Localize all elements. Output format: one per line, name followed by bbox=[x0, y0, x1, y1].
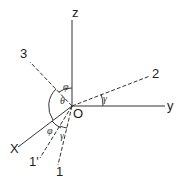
line-3-label: 3 bbox=[20, 46, 27, 61]
diagram-canvas: z y X O 3 2 1 1' φ θ γ φ γ bbox=[0, 0, 182, 184]
line-1-label: 1 bbox=[56, 164, 63, 179]
line-1-prime-label: 1' bbox=[29, 154, 39, 169]
line-2-label: 2 bbox=[152, 66, 159, 81]
coordinate-diagram: z y X O 3 2 1 1' φ θ γ φ γ bbox=[0, 0, 182, 184]
phi-bottom-arc bbox=[52, 121, 61, 128]
theta-glyph: θ bbox=[60, 95, 65, 106]
x-label: X bbox=[10, 141, 19, 156]
line-2 bbox=[72, 76, 150, 106]
gamma-right-glyph: γ bbox=[103, 93, 108, 104]
gamma-bottom-glyph: γ bbox=[60, 130, 65, 141]
phi-bottom-glyph: φ bbox=[47, 125, 53, 136]
line-1-prime bbox=[40, 106, 72, 158]
origin-label: O bbox=[73, 106, 83, 121]
y-label: y bbox=[167, 98, 174, 113]
z-label: z bbox=[72, 5, 79, 20]
theta-arc bbox=[49, 89, 56, 120]
phi-top-glyph: φ bbox=[63, 81, 69, 92]
